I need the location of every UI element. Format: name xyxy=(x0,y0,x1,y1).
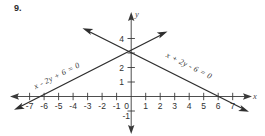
y-tick-label-4: 4 xyxy=(119,34,124,44)
axes-group xyxy=(10,12,252,134)
y-tick-label--1: -1 xyxy=(122,111,130,121)
coordinate-graph-figure: -7 -6 -5 -4 -3 -2 -1 0 1 2 3 4 5 6 7 4 2… xyxy=(0,0,265,136)
x-tick-label--2: -2 xyxy=(98,101,106,111)
x-tick-label-2: 2 xyxy=(158,101,163,111)
x-tick-label-4: 4 xyxy=(187,101,192,111)
graph-svg: -7 -6 -5 -4 -3 -2 -1 0 1 2 3 4 5 6 7 4 2… xyxy=(0,0,265,136)
line1-start-arrow-icon xyxy=(14,103,25,110)
x-tick-label-1: 1 xyxy=(143,101,148,111)
x-tick-label--5: -5 xyxy=(55,101,63,111)
x-tick-label-6: 6 xyxy=(216,101,221,111)
y-tick-label-1: 1 xyxy=(119,77,124,87)
line-x-plus-2y-minus-6 xyxy=(83,28,250,112)
line2-end-arrow-icon xyxy=(238,105,249,112)
x-tick-label--3: -3 xyxy=(84,101,92,111)
line2-start-arrow-icon xyxy=(83,28,94,35)
equation-label-left: x - 2y + 6 = 0 xyxy=(32,61,82,92)
x-tick-label-0: 0 xyxy=(124,101,129,111)
line1-end-arrow-icon xyxy=(157,32,168,39)
x-tick-label--4: -4 xyxy=(69,101,77,111)
x-tick-label--1: -1 xyxy=(113,101,121,111)
line-x-minus-2y-plus-6 xyxy=(14,32,168,110)
y-axis-label: y xyxy=(134,9,139,19)
x-tick-label-3: 3 xyxy=(172,101,177,111)
x-tick-label--7: -7 xyxy=(26,101,34,111)
equation-label-right: x + 2y - 6 = 0 xyxy=(164,50,214,81)
y-tick-label-2: 2 xyxy=(119,63,124,73)
x-tick-label--6: -6 xyxy=(40,101,48,111)
x-tick-labels: -7 -6 -5 -4 -3 -2 -1 0 1 2 3 4 5 6 7 xyxy=(26,101,236,111)
x-tick-label-5: 5 xyxy=(201,101,206,111)
x-tick-label-7: 7 xyxy=(230,101,235,111)
x-axis-label: x xyxy=(252,91,257,101)
